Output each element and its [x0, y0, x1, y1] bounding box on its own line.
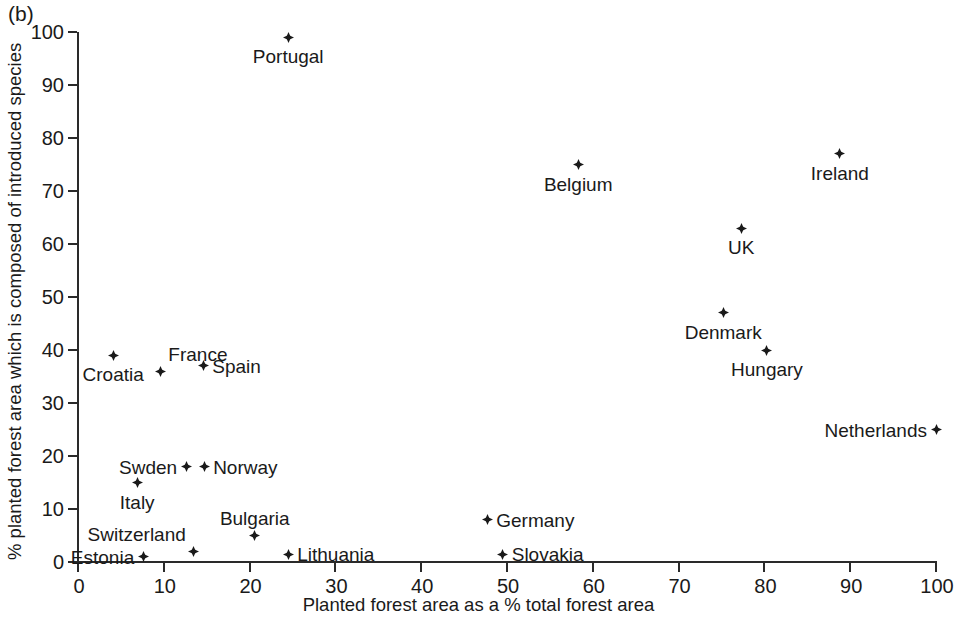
x-tick-10: [163, 563, 165, 572]
x-tick-label-0: 0: [49, 576, 109, 596]
point-label: Belgium: [544, 175, 613, 194]
diamond-marker-icon: [931, 424, 942, 435]
point-label: Spain: [212, 356, 261, 375]
y-tick-70: [68, 190, 77, 192]
x-tick-50: [506, 563, 508, 572]
point-label: Hungary: [731, 360, 803, 379]
data-point: [736, 223, 747, 234]
data-point: [138, 551, 149, 562]
diamond-marker-icon: [138, 551, 149, 562]
diamond-marker-icon: [283, 32, 294, 43]
data-point: [188, 546, 199, 557]
y-tick-80: [68, 137, 77, 139]
data-point: [283, 549, 294, 560]
point-label: Swden: [119, 457, 177, 476]
x-tick-60: [592, 563, 594, 572]
x-tick-label-80: 80: [735, 576, 795, 596]
diamond-marker-icon: [573, 159, 584, 170]
data-point: [497, 549, 508, 560]
data-point: [834, 148, 845, 159]
point-label: Lithuania: [297, 545, 374, 564]
x-tick-label-10: 10: [135, 576, 195, 596]
point-label: Croatia: [83, 365, 144, 384]
point-label: Ireland: [811, 164, 869, 183]
diamond-marker-icon: [283, 549, 294, 560]
x-tick-label-90: 90: [821, 576, 881, 596]
plot-area: PortugalBelgiumIrelandUKDenmarkHungaryNe…: [78, 32, 936, 562]
x-tick-90: [849, 563, 851, 572]
point-label: Bulgaria: [220, 509, 290, 528]
y-axis-title: % planted forest area which is composed …: [6, 20, 25, 560]
y-tick-50: [68, 296, 77, 298]
data-point: [198, 360, 209, 371]
diamond-marker-icon: [155, 366, 166, 377]
point-label: Slovakia: [512, 545, 584, 564]
data-point: [761, 345, 772, 356]
point-label: Norway: [213, 457, 277, 476]
y-tick-20: [68, 455, 77, 457]
diamond-marker-icon: [482, 514, 493, 525]
y-tick-90: [68, 84, 77, 86]
x-tick-20: [249, 563, 251, 572]
diamond-marker-icon: [718, 307, 729, 318]
diamond-marker-icon: [188, 546, 199, 557]
data-point: [718, 307, 729, 318]
x-tick-label-40: 40: [392, 576, 452, 596]
data-point: [283, 32, 294, 43]
data-point: [199, 461, 210, 472]
point-label: Netherlands: [825, 420, 927, 439]
diamond-marker-icon: [198, 360, 209, 371]
x-tick-100: [935, 563, 937, 572]
point-label: Switzerland: [88, 525, 186, 544]
y-tick-100: [68, 31, 77, 33]
data-point: [573, 159, 584, 170]
point-label: Italy: [120, 493, 155, 512]
y-tick-30: [68, 402, 77, 404]
point-label: Germany: [496, 510, 574, 529]
data-point: [108, 350, 119, 361]
x-tick-label-100: 100: [907, 576, 957, 596]
scatter-plot-figure: (b) 0102030405060708090100 0102030405060…: [0, 0, 957, 619]
x-tick-label-20: 20: [221, 576, 281, 596]
diamond-marker-icon: [181, 461, 192, 472]
x-axis-title: Planted forest area as a % total forest …: [0, 596, 957, 615]
data-point: [931, 424, 942, 435]
x-tick-label-70: 70: [650, 576, 710, 596]
data-point: [155, 366, 166, 377]
diamond-marker-icon: [199, 461, 210, 472]
point-label: UK: [728, 238, 754, 257]
diamond-marker-icon: [761, 345, 772, 356]
point-label: Portugal: [253, 47, 324, 66]
x-tick-40: [420, 563, 422, 572]
data-point: [181, 461, 192, 472]
x-tick-label-50: 50: [478, 576, 538, 596]
x-tick-70: [678, 563, 680, 572]
diamond-marker-icon: [249, 530, 260, 541]
x-tick-80: [763, 563, 765, 572]
diamond-marker-icon: [834, 148, 845, 159]
data-point: [482, 514, 493, 525]
point-label: Estonia: [71, 547, 134, 566]
diamond-marker-icon: [108, 350, 119, 361]
diamond-marker-icon: [497, 549, 508, 560]
data-point: [249, 530, 260, 541]
data-point: [132, 477, 143, 488]
y-tick-40: [68, 349, 77, 351]
y-tick-10: [68, 508, 77, 510]
x-tick-label-60: 60: [564, 576, 624, 596]
diamond-marker-icon: [736, 223, 747, 234]
point-label: Denmark: [685, 323, 762, 342]
x-tick-label-30: 30: [306, 576, 366, 596]
diamond-marker-icon: [132, 477, 143, 488]
y-tick-60: [68, 243, 77, 245]
